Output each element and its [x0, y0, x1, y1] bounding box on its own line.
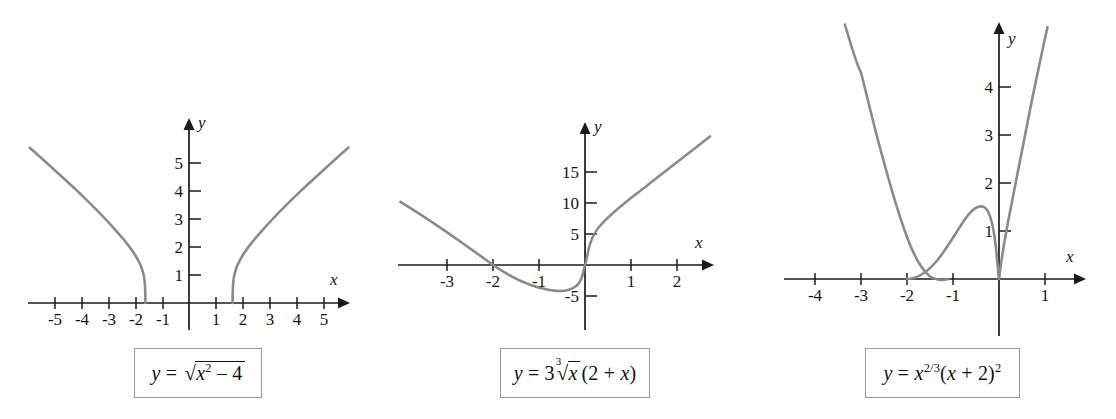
x-tick-label: 3	[266, 311, 275, 328]
y-tick-label: 2	[985, 175, 994, 192]
y-tick-label: 5	[175, 155, 184, 172]
y-axis-arrowhead	[994, 22, 1005, 34]
graph-panel-1: -5 -4 -3 -2 -1 1 2 3 4 5 1 2 3 4 5 x y y…	[0, 0, 372, 419]
y-tick-label: 4	[985, 79, 994, 96]
x-tick-label: 1	[627, 273, 636, 290]
y-tick-label: 1	[175, 267, 184, 284]
y-tick-label: 3	[175, 211, 184, 228]
formula-2: y = 33√x (2 + x)	[514, 361, 637, 386]
curve-right-arm	[999, 27, 1048, 279]
formula-3: y = x2/3(x + 2)2	[884, 362, 1002, 385]
x-axis-arrowhead	[1074, 274, 1086, 285]
y-axis-label: y	[594, 117, 602, 137]
y-tick-label: 4	[175, 183, 184, 200]
formula-1: y = √x2 – 4	[152, 361, 245, 386]
x-tick-label: -1	[532, 273, 546, 290]
x-tick-label: -3	[102, 311, 116, 328]
formula-box-3: y = x2/3(x + 2)2	[865, 348, 1020, 398]
y-tick-label: 3	[985, 127, 994, 144]
y-axis-arrowhead	[184, 118, 195, 130]
x-tick-label: -2	[486, 273, 500, 290]
y-tick-label: -5	[565, 288, 579, 305]
x-axis-label: x	[1066, 247, 1074, 267]
y-tick-label: 10	[562, 195, 579, 212]
curve-left-branch	[30, 148, 146, 303]
y-tick-label: 1	[985, 223, 994, 240]
x-tick-label: -5	[48, 311, 62, 328]
x-axis-label: x	[695, 233, 703, 253]
x-axis-arrowhead	[702, 260, 714, 271]
x-tick-label: 5	[320, 311, 329, 328]
y-axis-label: y	[1008, 29, 1016, 49]
y-tick-marks	[189, 163, 201, 275]
y-axis-arrowhead	[580, 122, 591, 134]
x-tick-label: 1	[212, 311, 221, 328]
y-tick-label: 15	[562, 164, 579, 181]
curve-left-arm	[845, 25, 948, 281]
x-tick-label: -3	[440, 273, 454, 290]
y-tick-label: 5	[571, 226, 580, 243]
x-tick-label: -3	[854, 287, 868, 304]
x-tick-label: 4	[293, 311, 302, 328]
graph-panel-2: -3 -2 -1 1 2 -5 5 10 15 x y y = 33√x (2 …	[372, 0, 744, 419]
x-axis-arrowhead	[338, 298, 350, 309]
x-tick-label: -4	[75, 311, 89, 328]
y-axis-label: y	[198, 113, 206, 133]
x-tick-label: 1	[1041, 287, 1050, 304]
x-axis-label: x	[330, 270, 338, 290]
x-tick-label: -4	[808, 287, 822, 304]
x-tick-label: -1	[946, 287, 960, 304]
x-tick-label: -1	[156, 311, 170, 328]
formula-box-1: y = √x2 – 4	[134, 348, 262, 398]
x-tick-label: 2	[673, 273, 682, 290]
y-tick-label: 2	[175, 239, 184, 256]
x-tick-label: -2	[900, 287, 914, 304]
formula-box-2: y = 33√x (2 + x)	[500, 348, 650, 398]
graph-panel-3: -4 -3 -2 -1 1 1 2 3 4 x y y = x2/3(x + 2…	[744, 0, 1116, 419]
x-tick-label: 2	[239, 311, 248, 328]
x-tick-label: -2	[129, 311, 143, 328]
